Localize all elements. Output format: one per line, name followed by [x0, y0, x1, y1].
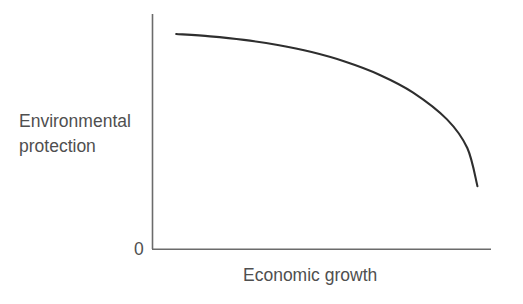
chart-canvas: 0 Environmental protection Economic grow…: [0, 0, 523, 304]
x-axis-label: Economic growth: [243, 265, 377, 285]
origin-label: 0: [134, 239, 144, 259]
y-axis-label-line-2: protection: [19, 136, 96, 156]
chart-figure: 0 Environmental protection Economic grow…: [0, 0, 523, 304]
y-axis-label-line-1: Environmental: [19, 111, 131, 131]
